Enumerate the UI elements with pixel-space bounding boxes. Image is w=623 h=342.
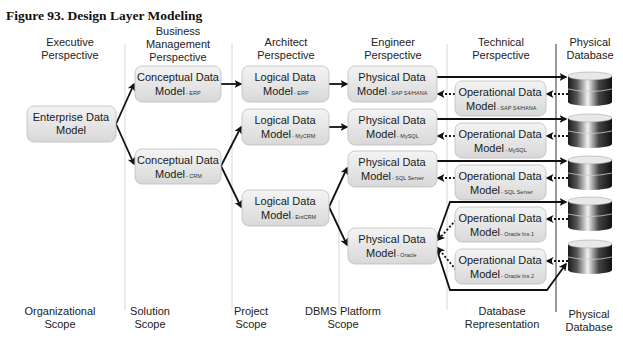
svg-text:- Oracle Ins 1: - Oracle Ins 1	[501, 231, 534, 237]
svg-text:Model: Model	[263, 85, 293, 97]
svg-text:Model: Model	[470, 184, 500, 196]
svg-text:Model: Model	[155, 168, 185, 180]
column-headers: ExecutivePerspective BusinessManagementP…	[41, 25, 613, 63]
box-conceptual-crm: Conceptual Data Model - CRM	[135, 149, 221, 184]
footer-dbms: DBMS PlatformScope	[305, 305, 381, 330]
footer-physical-db: PhysicalDatabase	[565, 308, 612, 333]
svg-text:- MySQL: - MySQL	[397, 133, 419, 139]
box-physical-sqlserver: Physical Data Model - SQL Server	[348, 151, 437, 187]
svg-text:Logical Data: Logical Data	[254, 195, 316, 207]
svg-text:- ERP: - ERP	[186, 90, 201, 96]
box-conceptual-erp: Conceptual Data Model - ERP	[135, 66, 221, 102]
box-operational-oracle2: Operational Data Model - Oracle Ins 2	[455, 249, 546, 284]
svg-text:Operational Data: Operational Data	[458, 254, 542, 266]
box-logical-entcrm: Logical Data Model - EntCRM	[242, 190, 329, 226]
svg-text:Model: Model	[357, 85, 387, 97]
svg-text:Model: Model	[261, 128, 291, 140]
svg-text:Model: Model	[466, 100, 496, 112]
footer-project: ProjectScope	[234, 305, 268, 330]
svg-text:Model: Model	[155, 85, 185, 97]
svg-text:Model: Model	[366, 128, 396, 140]
svg-text:Conceptual Data: Conceptual Data	[137, 71, 220, 83]
box-operational-oracle1: Operational Data Model - Oracle Ins 1	[455, 207, 546, 242]
box-physical-oracle: Physical Data Model - Oracle	[348, 228, 437, 264]
database-icon	[568, 72, 612, 106]
svg-text:Model: Model	[470, 226, 500, 238]
svg-text:- MySQL: - MySQL	[505, 147, 527, 153]
box-operational-sap: Operational Data Model - SAP S4/HANA	[455, 81, 546, 116]
footer-organizational: OrganizationalScope	[25, 305, 96, 330]
header-architect: ArchitectPerspective	[257, 36, 314, 61]
header-business: BusinessManagementPerspective	[146, 25, 210, 63]
svg-text:- SQL Server: - SQL Server	[501, 189, 533, 195]
database-icon	[568, 156, 612, 190]
box-logical-erp: Logical Data Model - ERP	[242, 66, 329, 102]
svg-text:Physical Data: Physical Data	[358, 71, 426, 83]
svg-text:Model: Model	[470, 268, 500, 280]
column-footers: OrganizationalScope SolutionScope Projec…	[25, 305, 613, 333]
svg-text:Operational Data: Operational Data	[458, 86, 542, 98]
footer-solution: SolutionScope	[130, 305, 170, 330]
svg-text:Conceptual Data: Conceptual Data	[137, 154, 220, 166]
svg-text:- SAP S4/HANA: - SAP S4/HANA	[497, 105, 537, 111]
svg-text:Logical Data: Logical Data	[254, 71, 316, 83]
svg-text:Operational Data: Operational Data	[458, 128, 542, 140]
svg-text:Model: Model	[474, 142, 504, 154]
svg-text:- CRM: - CRM	[186, 173, 202, 179]
svg-text:Operational Data: Operational Data	[458, 212, 542, 224]
box-operational-mysql: Operational Data Model - MySQL	[455, 123, 546, 158]
header-technical: TechnicalPerspective	[472, 36, 529, 61]
box-physical-sap: Physical Data Model - SAP S4/HANA	[348, 66, 437, 102]
svg-text:- Oracle Ins 2: - Oracle Ins 2	[501, 273, 534, 279]
database-icon	[568, 197, 612, 231]
box-physical-mysql: Physical Data Model - MySQL	[348, 109, 437, 145]
box-enterprise: Enterprise Data Model	[27, 106, 116, 142]
svg-text:- ERP: - ERP	[294, 90, 309, 96]
svg-text:- Oracle: - Oracle	[397, 252, 417, 258]
svg-text:- SAP S4/HANA: - SAP S4/HANA	[388, 90, 428, 96]
svg-text:Logical Data: Logical Data	[254, 114, 316, 126]
svg-text:Physical Data: Physical Data	[358, 156, 426, 168]
svg-text:Model: Model	[366, 247, 396, 259]
svg-text:Model: Model	[261, 209, 291, 221]
svg-text:Enterprise Data: Enterprise Data	[33, 111, 110, 123]
header-executive: ExecutivePerspective	[41, 36, 98, 61]
header-engineer: EngineerPerspective	[364, 36, 421, 61]
svg-text:- SQL Server: - SQL Server	[392, 175, 424, 181]
database-icons	[568, 72, 612, 274]
svg-text:- EntCRM: - EntCRM	[292, 214, 317, 220]
svg-text:Model: Model	[361, 170, 391, 182]
svg-text:Operational Data: Operational Data	[458, 170, 542, 182]
design-layer-diagram: ExecutivePerspective BusinessManagementP…	[0, 0, 623, 342]
database-icon	[568, 240, 612, 274]
box-operational-sqlserver: Operational Data Model - SQL Server	[455, 165, 546, 200]
svg-text:Physical Data: Physical Data	[358, 114, 426, 126]
footer-db-representation: DatabaseRepresentation	[465, 305, 540, 330]
svg-text:Model: Model	[56, 124, 86, 136]
header-physical-db: PhysicalDatabase	[566, 36, 613, 61]
box-logical-mycrm: Logical Data Model - MyCRM	[242, 109, 329, 145]
svg-text:- MyCRM: - MyCRM	[292, 133, 316, 139]
database-icon	[568, 114, 612, 148]
svg-text:Physical Data: Physical Data	[358, 233, 426, 245]
